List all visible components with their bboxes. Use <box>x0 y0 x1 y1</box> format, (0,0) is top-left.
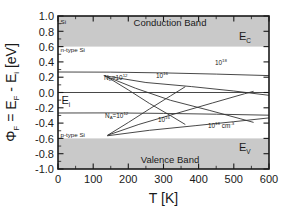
x-tick-label: 0 <box>55 173 61 185</box>
x-axis-title-text: T [K] <box>149 190 178 206</box>
Ev-subscript: V <box>246 148 251 155</box>
Ec-subscript: C <box>246 37 251 44</box>
x-tick-label: 500 <box>225 173 243 185</box>
n-type-si-label: n-type Si <box>61 46 85 53</box>
y-tick-label: 0.4 <box>39 56 54 68</box>
y-tick-labels: 1.0 0.8 0.6 0.4 0.2 0.0 -0.2 -0.4 -0.6 -… <box>35 10 54 175</box>
y-tick-label: 0.0 <box>39 87 54 99</box>
Ei-subscript: i <box>69 101 70 108</box>
x-tick-label: 400 <box>189 173 207 185</box>
y-tick-label: -0.6 <box>35 133 54 145</box>
chart-svg: 1.0 0.8 0.6 0.4 0.2 0.0 -0.2 -0.4 -0.6 -… <box>0 0 286 214</box>
y-tick-label: 0.2 <box>39 71 54 83</box>
x-tick-label: 600 <box>260 173 278 185</box>
x-tick-label: 300 <box>154 173 172 185</box>
y-tick-label: 0.8 <box>39 26 54 38</box>
x-tick-label: 200 <box>119 173 137 185</box>
y-tick-label: -1.0 <box>35 163 54 175</box>
ylabel-minus: - E <box>3 74 19 96</box>
y-tick-label: -0.8 <box>35 148 54 160</box>
y-tick-label: 0.6 <box>39 41 54 53</box>
y-tick-label: -0.2 <box>35 102 54 114</box>
svg-text:T [K]: T [K] <box>149 190 178 206</box>
x-tick-label: 100 <box>84 173 102 185</box>
figure-container: 1.0 0.8 0.6 0.4 0.2 0.0 -0.2 -0.4 -0.6 -… <box>0 0 286 214</box>
x-axis-title: T [K] <box>149 190 178 206</box>
p-type-si-label: p-type Si <box>61 131 85 138</box>
ylabel-phi: Φ <box>3 131 19 142</box>
si-label: Si <box>61 18 67 25</box>
y-tick-label: 1.0 <box>39 10 54 22</box>
y-tick-label: -0.4 <box>35 117 54 129</box>
ylabel-eq: = E <box>3 100 19 125</box>
conduction-band-label: Conduction Band <box>134 17 207 28</box>
valence-band-label: Valence Band <box>141 154 199 165</box>
ylabel-unit: [eV] <box>3 43 19 72</box>
